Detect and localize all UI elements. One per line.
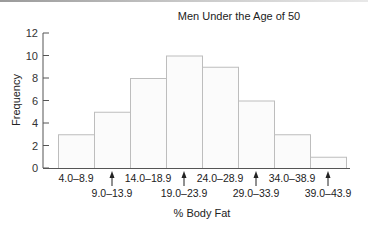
arrow-head-icon — [326, 171, 331, 178]
y-tick-label: 10 — [26, 50, 38, 62]
arrow-head-icon — [254, 171, 259, 178]
y-tick-label: 6 — [32, 95, 38, 107]
histogram-bar — [275, 135, 311, 169]
arrow-head-icon — [182, 171, 187, 178]
histogram-bar — [131, 79, 167, 169]
histogram-bar — [167, 56, 203, 169]
y-axis-label: Frequency — [10, 74, 22, 126]
y-tick-label: 2 — [32, 140, 38, 152]
x-category-label: 29.0–33.9 — [233, 187, 280, 199]
x-category-label: 4.0–8.9 — [58, 172, 93, 184]
histogram-bar — [95, 112, 131, 168]
chart-title: Men Under the Age of 50 — [178, 10, 300, 22]
y-tick-label: 12 — [26, 27, 38, 39]
histogram-bar — [203, 67, 239, 168]
x-category-label: 19.0–23.9 — [161, 187, 208, 199]
histogram-bar — [239, 101, 275, 169]
y-axis: 024681012 — [26, 27, 49, 174]
x-axis: 4.0–8.99.0–13.914.0–18.919.0–23.924.0–28… — [43, 169, 352, 200]
x-category-label: 24.0–28.9 — [197, 172, 244, 184]
x-axis-label: % Body Fat — [174, 207, 231, 219]
histogram-bar — [311, 157, 347, 168]
y-tick-label: 4 — [32, 117, 38, 129]
arrow-head-icon — [110, 171, 115, 178]
bars — [59, 56, 347, 169]
x-category-label: 39.0–43.9 — [305, 187, 352, 199]
y-tick-label: 8 — [32, 72, 38, 84]
histogram-chart: Men Under the Age of 50 024681012 4.0–8.… — [0, 0, 368, 230]
x-category-label: 14.0–18.9 — [125, 172, 172, 184]
x-category-label: 9.0–13.9 — [92, 187, 133, 199]
y-tick-label: 0 — [32, 162, 38, 174]
x-category-label: 34.0–38.9 — [269, 172, 316, 184]
histogram-bar — [59, 135, 95, 169]
